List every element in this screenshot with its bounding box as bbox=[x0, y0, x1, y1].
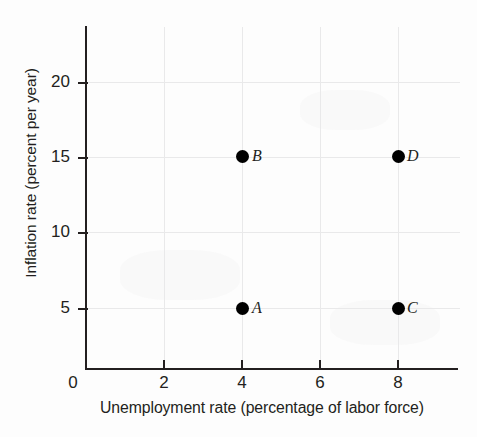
x-axis-tick-label: 6 bbox=[305, 374, 335, 392]
data-point-marker[interactable] bbox=[392, 302, 405, 315]
gridline-horizontal bbox=[86, 232, 460, 233]
x-axis-tick bbox=[319, 360, 321, 370]
y-axis-tick bbox=[78, 308, 88, 310]
x-axis-tick bbox=[163, 360, 165, 370]
x-axis-line bbox=[85, 368, 458, 370]
data-point-marker[interactable] bbox=[392, 150, 405, 163]
y-axis-title: Inflation rate (percent per year) bbox=[20, 28, 42, 318]
gridline-vertical bbox=[242, 27, 243, 369]
data-point-marker[interactable] bbox=[236, 302, 249, 315]
y-axis-tick bbox=[78, 157, 88, 159]
gridline-vertical bbox=[398, 27, 399, 369]
data-point-label: C bbox=[407, 300, 418, 316]
origin-tick-label: 0 bbox=[58, 374, 88, 392]
paper-texture-blotch bbox=[300, 90, 390, 130]
y-axis-tick bbox=[78, 232, 88, 234]
gridline-horizontal bbox=[86, 82, 460, 83]
data-point-label: B bbox=[252, 148, 262, 164]
y-axis-tick-label: 15 bbox=[30, 148, 70, 166]
y-axis-tick-label: 10 bbox=[30, 223, 70, 241]
x-axis-tick-label: 2 bbox=[149, 374, 179, 392]
y-axis-tick bbox=[78, 82, 88, 84]
x-axis-tick bbox=[241, 360, 243, 370]
data-point-label: D bbox=[407, 148, 419, 164]
data-point-marker[interactable] bbox=[236, 150, 249, 163]
x-axis-title: Unemployment rate (percentage of labor f… bbox=[60, 399, 464, 417]
paper-texture-blotch bbox=[120, 250, 240, 300]
y-axis-line bbox=[85, 26, 87, 370]
scatter-chart-figure: Inflation rate (percent per year) Unempl… bbox=[0, 0, 477, 437]
x-axis-tick-label: 8 bbox=[383, 374, 413, 392]
gridline-vertical bbox=[164, 27, 165, 369]
paper-texture-blotch bbox=[330, 300, 440, 345]
x-axis-tick-label: 4 bbox=[227, 374, 257, 392]
gridline-vertical bbox=[320, 27, 321, 369]
data-point-label: A bbox=[252, 300, 262, 316]
x-axis-tick bbox=[397, 360, 399, 370]
y-axis-tick-label: 5 bbox=[30, 299, 70, 317]
y-axis-tick-label: 20 bbox=[30, 73, 70, 91]
